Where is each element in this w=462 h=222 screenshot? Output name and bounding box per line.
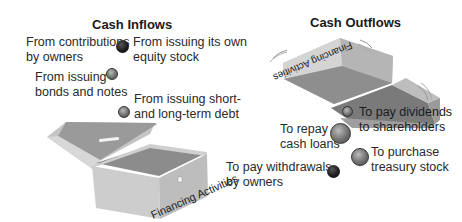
inflow-contributions-label: From contributions by owners: [26, 35, 130, 65]
inflows-title: Cash Inflows: [92, 17, 172, 32]
coin-icon: [327, 165, 340, 178]
inflow-equity-stock-label: From issuing its own equity stock: [133, 35, 247, 65]
outflow-dividends-label: To pay dividends to shareholders: [359, 105, 452, 135]
coin-icon: [118, 106, 130, 118]
outflows-title: Cash Outflows: [310, 15, 401, 30]
coin-icon: [106, 68, 118, 80]
coin-icon: [116, 40, 129, 53]
coin-icon: [330, 123, 351, 144]
inflow-debt-label: From issuing short- and long-term debt: [134, 92, 241, 122]
coin-icon: [342, 106, 353, 117]
outflow-withdrawals-label: To pay withdrawals by owners: [226, 160, 332, 190]
outflow-treasury-label: To purchase treasury stock: [371, 145, 449, 175]
coin-icon: [351, 148, 369, 166]
